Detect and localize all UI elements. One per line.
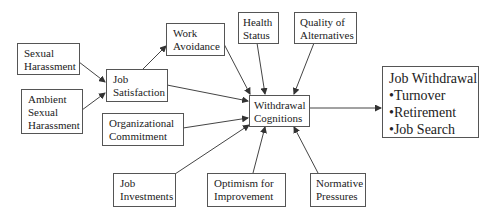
node-label-line: Quality of	[300, 16, 351, 29]
node-normative-pressures: Normative Pressures	[310, 173, 366, 207]
node-label-line: Improvement	[214, 190, 279, 203]
node-job-satisfaction: Job Satisfaction	[106, 69, 168, 102]
node-job-withdrawal: Job Withdrawal •Turnover •Retirement •Jo…	[382, 66, 479, 138]
arrow-normative-to-withdrawal	[294, 127, 318, 173]
withdrawal-model-diagram: Sexual Harassment Ambient Sexual Harassm…	[0, 0, 494, 218]
node-label-line: Sexual	[28, 106, 76, 119]
node-label-line: Organizational	[109, 117, 177, 130]
node-label-line: Normative	[316, 177, 360, 190]
node-label-line: Harassment	[24, 60, 73, 73]
node-label-title: Job Withdrawal	[389, 70, 472, 87]
node-label-line: Harassment	[28, 119, 76, 132]
node-label-line: Satisfaction	[113, 86, 161, 99]
arrow-job-satisfaction-to-withdrawal	[167, 85, 248, 101]
node-optimism-for-improvement: Optimism for Improvement	[207, 173, 286, 207]
arrow-ambient-to-job-satisfaction	[82, 93, 105, 110]
node-bullet-turnover: •Turnover	[389, 87, 472, 104]
arrow-job-investments-to-withdrawal	[175, 125, 249, 174]
node-quality-of-alternatives: Quality of Alternatives	[294, 12, 357, 44]
node-label-line: Commitment	[109, 130, 177, 143]
node-health-status: Health Status	[238, 12, 279, 44]
node-label-line: Status	[243, 29, 274, 42]
node-label-line: Withdrawal	[254, 99, 305, 112]
node-label-line: Sexual	[24, 47, 73, 60]
node-sexual-harassment: Sexual Harassment	[17, 43, 80, 75]
node-label-line: Alternatives	[300, 29, 351, 42]
arrow-quality-to-withdrawal	[294, 43, 314, 94]
arrow-optimism-to-withdrawal	[253, 127, 265, 173]
arrow-org-commitment-to-withdrawal	[183, 118, 248, 128]
node-work-avoidance: Work Avoidance	[166, 23, 225, 56]
arrow-work-avoidance-to-withdrawal	[224, 44, 250, 94]
node-bullet-retirement: •Retirement	[389, 104, 472, 121]
node-job-investments: Job Investments	[113, 173, 176, 207]
arrow-sexual-harassment-to-job-satisfaction	[79, 62, 105, 82]
node-ambient-sexual-harassment: Ambient Sexual Harassment	[21, 89, 83, 134]
node-organizational-commitment: Organizational Commitment	[102, 113, 184, 146]
node-bullet-job-search: •Job Search	[389, 121, 472, 138]
node-label-line: Pressures	[316, 190, 360, 203]
node-label-line: Avoidance	[173, 40, 218, 53]
node-label-line: Work	[173, 27, 218, 40]
node-label-line: Optimism for	[214, 177, 279, 190]
arrow-job-satisfaction-to-work-avoidance	[143, 46, 166, 69]
node-label-line: Cognitions	[254, 112, 305, 125]
node-label-line: Ambient	[28, 93, 76, 106]
node-label-line: Job	[113, 73, 161, 86]
node-label-line: Job	[120, 177, 169, 190]
node-withdrawal-cognitions: Withdrawal Cognitions	[249, 95, 310, 127]
node-label-line: Health	[243, 16, 274, 29]
node-label-line: Investments	[120, 190, 169, 203]
arrow-health-status-to-withdrawal	[257, 43, 265, 94]
